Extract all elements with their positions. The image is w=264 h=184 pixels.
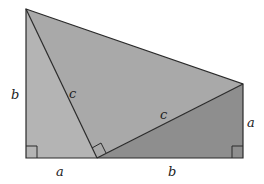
trapezoid-diagram: b c a c b a: [0, 0, 264, 184]
label-mid-hyp: c: [160, 107, 168, 122]
label-right-side: a: [247, 115, 255, 130]
label-bottom-right: b: [168, 164, 176, 179]
label-left-side: b: [11, 87, 19, 102]
label-bottom-left: a: [56, 164, 64, 179]
label-left-hyp: c: [69, 86, 77, 101]
